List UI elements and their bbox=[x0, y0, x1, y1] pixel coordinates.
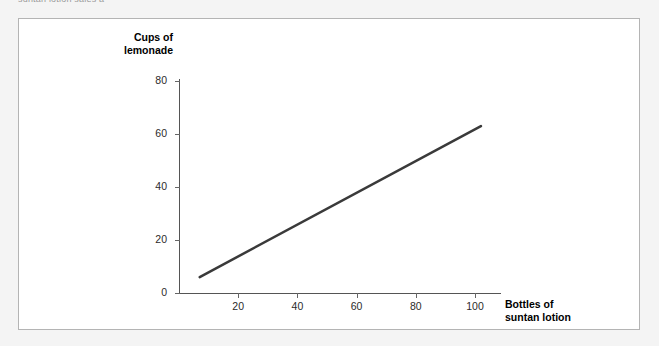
figure-panel: Cups of lemonade Bottles of suntan lotio… bbox=[18, 18, 640, 330]
series-layer bbox=[19, 19, 641, 331]
plot-area: Cups of lemonade Bottles of suntan lotio… bbox=[19, 19, 639, 329]
data-series-line bbox=[200, 126, 481, 277]
clipped-caption-text: suntan lotion sales a bbox=[18, 0, 438, 6]
